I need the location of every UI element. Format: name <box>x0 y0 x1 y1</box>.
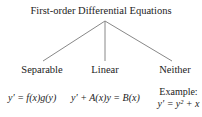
linear-equation: y′ + A(x)y = B(x) <box>71 92 140 103</box>
neither-equation: y′ = y² + x <box>155 98 202 110</box>
neither-example: Example: y′ = y² + x <box>155 86 202 110</box>
branch-separable-label: Separable <box>10 64 74 75</box>
branch-neither-label: Neither <box>150 64 200 75</box>
example-label: Example: <box>155 86 202 98</box>
separable-equation: y′ = f(x)g(y) <box>8 92 56 103</box>
branch-linear-label: Linear <box>80 64 130 75</box>
